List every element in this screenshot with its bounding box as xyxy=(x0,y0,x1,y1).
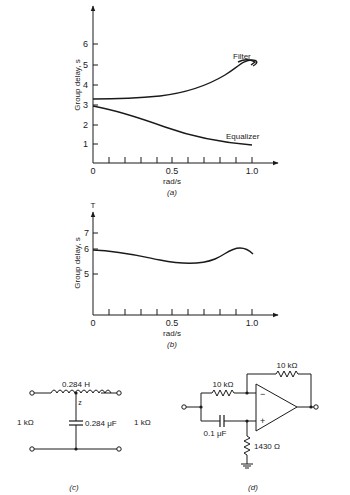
y-axis-label: Group delay, s xyxy=(73,59,82,110)
input-resistor-value: 10 kΩ xyxy=(212,380,233,389)
x-axis-label: rad/s xyxy=(163,177,181,186)
feedback-resistor-value: 10 kΩ xyxy=(276,361,297,370)
panel-d-circuit: 10 kΩ 0.1 μF 1430 Ω − + 10 kΩ (d) xyxy=(182,361,318,492)
panel-caption: (c) xyxy=(69,483,79,492)
ground-resistor-value: 1430 Ω xyxy=(254,442,280,451)
terminal xyxy=(117,391,121,395)
capacitor-value: 0.284 μF xyxy=(85,419,117,428)
axis-top-label: T xyxy=(91,201,96,210)
x-tick-label: 1.0 xyxy=(246,166,259,176)
x-ticks xyxy=(109,157,252,163)
feedback-resistor-symbol xyxy=(276,371,298,377)
ground-resistor-symbol xyxy=(244,436,250,455)
y-tick-label: 1 xyxy=(83,139,88,149)
y-tick-label: 6 xyxy=(83,39,88,49)
filter-label: Filter xyxy=(233,52,251,61)
input-resistor-symbol xyxy=(212,390,234,396)
panel-caption: (a) xyxy=(167,188,177,197)
x-tick-label: 0 xyxy=(90,318,95,328)
panel-caption: (b) xyxy=(167,340,177,349)
non-inverting-input: + xyxy=(260,416,265,426)
load-resistance: 1 kΩ xyxy=(134,418,151,427)
terminal xyxy=(117,447,121,451)
panel-c-circuit: 0.284 H z 0.284 μF 1 kΩ 1 kΩ (c) xyxy=(17,380,151,492)
inverting-input: − xyxy=(260,389,265,399)
input-terminal xyxy=(182,405,186,409)
x-tick-label: 0 xyxy=(90,166,95,176)
y-tick-label: 3 xyxy=(83,100,88,110)
source-resistance: 1 kΩ xyxy=(17,418,34,427)
y-tick-label: 6 xyxy=(84,244,89,254)
y-axis-label: Group delay, s xyxy=(73,237,82,288)
y-ticks xyxy=(93,44,98,144)
equalizer-label: Equalizer xyxy=(226,132,260,141)
y-tick-label: 5 xyxy=(84,269,89,279)
x-axis-label: rad/s xyxy=(163,329,181,338)
y-tick-label: 4 xyxy=(83,80,88,90)
x-ticks xyxy=(109,309,252,315)
y-tick-label: 5 xyxy=(83,60,88,70)
panel-a-chart: 1 2 3 4 5 6 0 0.5 1.0 rad/s (a) Group de… xyxy=(73,6,278,197)
terminal xyxy=(30,447,34,451)
output-terminal xyxy=(314,405,318,409)
capacitor-value: 0.1 μF xyxy=(204,429,227,438)
y-tick-label: 2 xyxy=(83,120,88,130)
x-tick-label: 0.5 xyxy=(166,318,179,328)
panel-caption: (d) xyxy=(248,483,258,492)
filter-curve xyxy=(93,60,257,99)
y-ticks xyxy=(93,233,98,274)
inductor-value: 0.284 H xyxy=(62,380,90,389)
terminal xyxy=(30,391,34,395)
node-label: z xyxy=(78,399,82,406)
total-delay-curve xyxy=(93,248,253,263)
figure-canvas: 1 2 3 4 5 6 0 0.5 1.0 rad/s (a) Group de… xyxy=(0,0,350,495)
y-tick-label: 7 xyxy=(84,228,89,238)
x-tick-label: 0.5 xyxy=(166,166,179,176)
x-tick-label: 1.0 xyxy=(246,318,259,328)
panel-b-chart: T 5 6 7 0 0.5 1.0 rad/s (b) Group delay,… xyxy=(73,201,278,349)
